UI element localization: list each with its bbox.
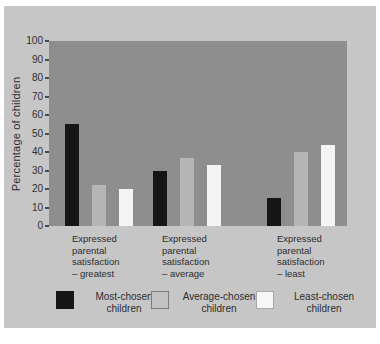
y-tick-mark	[45, 133, 49, 135]
y-tick-label: 40	[15, 146, 43, 158]
bar-least-chosen-group3	[321, 145, 335, 226]
y-tick-label: 100	[15, 35, 43, 47]
bar-average-chosen-group1	[92, 185, 106, 226]
legend-swatch	[256, 291, 274, 309]
y-tick-mark	[45, 151, 49, 153]
y-tick-mark	[45, 170, 49, 172]
y-tick-mark	[45, 59, 49, 61]
y-tick-mark	[45, 40, 49, 42]
bar-most-chosen-group1	[65, 124, 79, 226]
y-tick-mark	[45, 188, 49, 190]
bar-most-chosen-group2	[153, 171, 167, 227]
y-tick-mark	[45, 225, 49, 227]
bar-average-chosen-group3	[294, 152, 308, 226]
y-tick-label: 60	[15, 109, 43, 121]
y-tick-label: 20	[15, 183, 43, 195]
category-label: Expressed parental satisfaction – averag…	[162, 233, 210, 279]
legend-label: Least-chosen children	[276, 291, 372, 315]
bar-average-chosen-group2	[180, 158, 194, 226]
y-tick-label: 10	[15, 202, 43, 214]
legend-label: Average-chosen children	[171, 291, 267, 315]
y-tick-label: 80	[15, 72, 43, 84]
y-tick-label: 50	[15, 128, 43, 140]
y-tick-mark	[45, 207, 49, 209]
y-tick-label: 0	[15, 220, 43, 232]
y-tick-label: 30	[15, 165, 43, 177]
legend-swatch	[151, 291, 169, 309]
bar-least-chosen-group2	[207, 165, 221, 226]
category-label: Expressed parental satisfaction – least	[277, 233, 325, 279]
category-label: Expressed parental satisfaction – greate…	[72, 233, 120, 279]
legend-swatch	[56, 291, 74, 309]
bar-most-chosen-group3	[267, 198, 281, 226]
y-tick-label: 70	[15, 91, 43, 103]
bar-least-chosen-group1	[119, 189, 133, 226]
y-tick-mark	[45, 114, 49, 116]
y-tick-mark	[45, 96, 49, 98]
y-tick-label: 90	[15, 54, 43, 66]
y-tick-mark	[45, 77, 49, 79]
figure-page: Percentage of children 10090807060504030…	[0, 0, 380, 344]
